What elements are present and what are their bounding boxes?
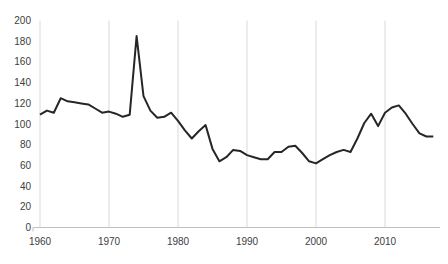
y-axis-tick-label: 100	[14, 119, 31, 130]
x-axis-tick-label: 1990	[236, 236, 259, 247]
y-axis-tick-label: 40	[20, 181, 32, 192]
y-axis-tick-label: 180	[14, 36, 31, 47]
chart-canvas: 0204060801001201401601802001960197019801…	[0, 0, 448, 264]
x-axis-tick-label: 2010	[374, 236, 397, 247]
data-series-line	[40, 36, 433, 163]
y-axis-tick-label: 80	[20, 139, 32, 150]
y-axis-tick-label: 140	[14, 77, 31, 88]
y-axis-tick-label: 60	[20, 160, 32, 171]
y-axis-tick-label: 20	[20, 201, 32, 212]
y-axis-tick-label: 0	[25, 222, 31, 233]
x-axis-tick-label: 1970	[98, 236, 121, 247]
y-axis-tick-label: 160	[14, 56, 31, 67]
line-chart-figure: 0204060801001201401601802001960197019801…	[0, 0, 448, 264]
y-axis-tick-label: 200	[14, 15, 31, 26]
x-axis-tick-label: 1960	[29, 236, 52, 247]
x-axis-tick-label: 2000	[305, 236, 328, 247]
y-axis-tick-label: 120	[14, 98, 31, 109]
x-axis-tick-label: 1980	[167, 236, 190, 247]
